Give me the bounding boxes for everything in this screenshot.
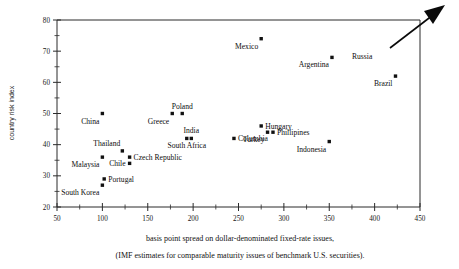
- x-tick-label: 450: [415, 215, 426, 223]
- point-label: South Africa: [167, 141, 206, 150]
- point-label: Mexico: [235, 42, 258, 51]
- data-point-marker: [101, 183, 104, 186]
- y-tick-label: 80: [43, 17, 51, 25]
- data-point-marker: [259, 124, 262, 127]
- russia-arrow-head: [424, 5, 445, 24]
- data-point-marker: [190, 137, 193, 140]
- y-tick-label: 50: [43, 110, 51, 118]
- point-label: Brazil: [374, 79, 393, 88]
- data-point-marker: [271, 131, 274, 134]
- chart-svg: 20304050607080 5010015020025030035040045…: [0, 0, 459, 269]
- point-label: China: [81, 117, 100, 126]
- data-points-layer: ChinaMalaysiaSouth KoreaPortugalThailand…: [61, 37, 397, 197]
- data-point-marker: [394, 74, 397, 77]
- data-point-marker: [330, 56, 333, 59]
- x-tick-label: 350: [324, 215, 335, 223]
- data-point-marker: [128, 162, 131, 165]
- point-label: Chile: [109, 159, 126, 168]
- data-point-marker: [101, 112, 104, 115]
- scatter-chart: 20304050607080 5010015020025030035040045…: [0, 0, 459, 269]
- y-tick-label: 30: [43, 172, 51, 180]
- data-point-marker: [101, 155, 104, 158]
- data-point-marker: [259, 37, 262, 40]
- x-tick-label: 400: [369, 215, 380, 223]
- data-point-marker: [266, 131, 269, 134]
- point-label: India: [184, 126, 200, 135]
- x-tick-label: 150: [142, 215, 153, 223]
- data-point-marker: [128, 155, 131, 158]
- point-label: Phillipines: [277, 128, 310, 137]
- x-tick-label: 50: [53, 215, 61, 223]
- x-axis-caption-line1: basis point spread on dollar-denominated…: [146, 234, 334, 243]
- data-point-marker: [181, 112, 184, 115]
- point-label: Poland: [172, 102, 193, 111]
- y-axis-label: country risk index: [8, 85, 16, 140]
- x-axis-ticks: 50100150200250300350400450: [53, 203, 425, 223]
- data-point-marker: [171, 112, 174, 115]
- point-label: Portugal: [108, 175, 134, 184]
- russia-arrow-annotation: [390, 5, 445, 48]
- data-point-marker: [102, 177, 105, 180]
- point-label: Thailand: [93, 139, 120, 148]
- x-tick-label: 250: [233, 215, 244, 223]
- y-tick-label: 40: [43, 141, 51, 149]
- x-tick-label: 200: [188, 215, 199, 223]
- x-tick-label: 100: [97, 215, 108, 223]
- point-label: Argentina: [299, 60, 330, 69]
- point-label: Greece: [148, 117, 170, 126]
- point-label: Malaysia: [72, 160, 100, 169]
- point-label: South Korea: [61, 188, 100, 197]
- data-point-marker: [121, 149, 124, 152]
- data-point-marker: [232, 137, 235, 140]
- y-tick-label: 60: [43, 79, 51, 87]
- x-axis-caption-line2: (IMF estimates for comparable maturity i…: [116, 251, 365, 260]
- y-axis-ticks: 20304050607080: [43, 17, 61, 212]
- point-label: Czech Republic: [134, 153, 183, 162]
- point-label: Turkey: [243, 135, 265, 144]
- point-label-russia: Russia: [352, 52, 373, 61]
- y-tick-label: 20: [43, 204, 51, 212]
- data-point-marker: [328, 140, 331, 143]
- point-label: Indonesia: [297, 145, 327, 154]
- y-tick-label: 70: [43, 48, 51, 56]
- data-point-marker: [185, 137, 188, 140]
- x-tick-label: 300: [278, 215, 289, 223]
